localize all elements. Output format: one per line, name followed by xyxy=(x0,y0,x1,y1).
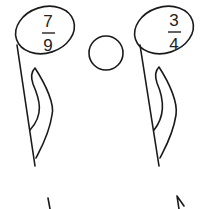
left-balloon: 7 9 xyxy=(9,0,80,166)
left-numerator: 7 xyxy=(43,12,52,31)
right-denominator: 4 xyxy=(169,35,178,54)
comparison-answer-circle[interactable] xyxy=(89,36,123,70)
right-balloon-head xyxy=(128,0,199,61)
left-balloon-stem xyxy=(17,45,35,166)
fraction-comparison-diagram: 7 9 3 4 xyxy=(0,0,201,209)
right-balloon: 3 4 xyxy=(128,0,199,166)
right-balloon-ribbon xyxy=(154,67,176,158)
next-row-left-stem-partial xyxy=(48,198,50,209)
left-balloon-ribbon xyxy=(30,68,53,158)
right-balloon-stem xyxy=(140,45,159,166)
left-denominator: 9 xyxy=(43,36,52,55)
next-row-right-stem-partial xyxy=(177,196,184,209)
right-numerator: 3 xyxy=(169,11,178,30)
